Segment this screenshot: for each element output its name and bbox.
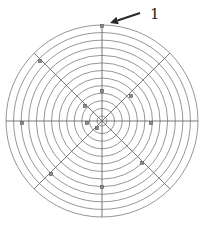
marker-point — [100, 89, 103, 92]
marker-point — [20, 121, 23, 124]
marker-point — [100, 24, 103, 27]
marker-point — [140, 161, 143, 164]
marker-point — [49, 172, 52, 175]
marker-point — [95, 126, 98, 129]
marker-point — [83, 104, 86, 107]
marker-point — [149, 121, 152, 124]
callout-arrow-line — [118, 13, 140, 20]
marker-point — [38, 59, 41, 62]
concentric-circle-diagram: 1 — [0, 0, 206, 226]
callout-1: 1 — [110, 5, 160, 24]
marker-point — [85, 121, 88, 124]
arrow-head-icon — [110, 17, 119, 25]
callout-label: 1 — [150, 5, 160, 23]
marker-point — [100, 185, 103, 188]
marker-point — [129, 94, 132, 97]
